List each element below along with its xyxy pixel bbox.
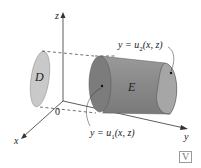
region-diagram (0, 0, 201, 168)
x-axis-label: x (14, 136, 18, 146)
lower-surface-label: y = u1(x, z) (90, 128, 135, 141)
solid-label-e: E (128, 81, 135, 93)
upper-surface-label: y = u2(x, z) (118, 40, 163, 53)
lower-surface-eq: y = u (90, 127, 111, 138)
z-axis (61, 12, 66, 101)
projection-label-d: D (35, 71, 44, 83)
upper-surface-eq: y = u (118, 39, 139, 50)
lower-surface-args: (x, z) (115, 127, 135, 138)
y-axis-label: y (184, 132, 188, 142)
z-axis-label: z (55, 11, 59, 21)
visual-badge: V (179, 151, 192, 163)
origin-label: 0 (55, 107, 60, 117)
upper-surface-args: (x, z) (143, 39, 163, 50)
